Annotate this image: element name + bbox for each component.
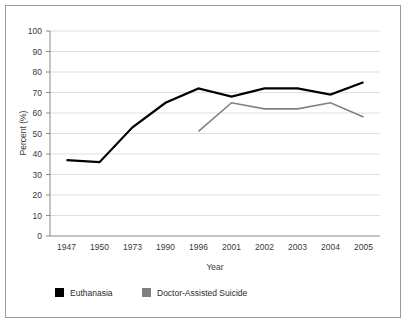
y-axis-title: Percent (%): [18, 110, 28, 155]
series-lines: [67, 82, 364, 162]
x-tick-label: 2001: [222, 242, 241, 252]
x-tick-label: 2005: [354, 242, 373, 252]
legend-label-euthanasia: Euthanasia: [70, 288, 113, 298]
y-tick-label: 0: [37, 231, 42, 241]
y-tick-label: 40: [33, 149, 43, 159]
gridlines: [46, 31, 380, 236]
line-chart: 0102030405060708090100 19471950197319901…: [0, 0, 407, 324]
x-tick-label: 2003: [288, 242, 307, 252]
x-tick-labels: 1947195019731990199620012002200320042005: [57, 242, 373, 252]
y-tick-label: 10: [33, 211, 43, 221]
x-tick-label: 1973: [123, 242, 142, 252]
y-tick-label: 30: [33, 170, 43, 180]
legend-swatch-doctor-assisted-suicide: [142, 288, 151, 297]
y-tick-label: 20: [33, 190, 43, 200]
y-tick-label: 90: [33, 47, 43, 57]
x-axis-title: Year: [206, 262, 223, 272]
series-line-doctor-assisted-suicide: [199, 103, 364, 132]
y-tick-labels: 0102030405060708090100: [28, 26, 42, 241]
x-tick-label: 1996: [189, 242, 208, 252]
series-line-euthanasia: [67, 82, 364, 162]
y-tick-label: 60: [33, 108, 43, 118]
x-tick-label: 1990: [156, 242, 175, 252]
y-tick-label: 50: [33, 129, 43, 139]
chart-legend: Euthanasia Doctor-Assisted Suicide: [55, 288, 248, 298]
y-tick-label: 80: [33, 67, 43, 77]
x-tick-label: 2004: [321, 242, 340, 252]
x-tick-label: 1950: [90, 242, 109, 252]
x-tick-label: 1947: [57, 242, 76, 252]
legend-swatch-euthanasia: [55, 288, 64, 297]
y-tick-label: 70: [33, 88, 43, 98]
legend-label-doctor-assisted-suicide: Doctor-Assisted Suicide: [157, 288, 248, 298]
x-tick-label: 2002: [255, 242, 274, 252]
chart-figure: 0102030405060708090100 19471950197319901…: [0, 0, 407, 324]
y-tick-label: 100: [28, 26, 42, 36]
